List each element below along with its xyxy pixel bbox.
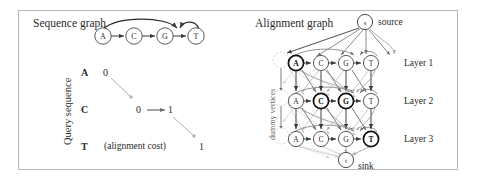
alignment-cost-note: (alignment cost)	[104, 142, 166, 152]
alignment-graph-title: Alignment graph	[255, 18, 333, 30]
query-cost-a: 0	[103, 68, 108, 78]
query-row-letter-c: C	[81, 105, 88, 115]
dummy-vertices-label: dummy vertices	[268, 89, 277, 140]
query-sequence-axis-label: Query sequence	[62, 78, 73, 145]
query-row-letter-t: T	[81, 142, 88, 152]
sink-text-label: sink	[358, 162, 374, 172]
layer-2-label: Layer 2	[404, 97, 433, 107]
layer-1-label: Layer 1	[404, 59, 433, 69]
figure-root: A C G T s A	[0, 0, 481, 181]
query-cost-t: 1	[199, 142, 204, 152]
query-cost-c-left: 0	[136, 105, 141, 115]
sequence-graph-title: Sequence graph	[33, 18, 106, 30]
query-row-letter-a: A	[81, 68, 88, 78]
layer-3-label: Layer 3	[404, 135, 433, 145]
query-cost-c-right: 1	[168, 105, 173, 115]
source-text-label: source	[378, 18, 403, 28]
